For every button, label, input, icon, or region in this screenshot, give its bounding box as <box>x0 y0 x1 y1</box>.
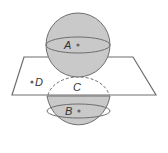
label-c: C <box>73 81 81 93</box>
label-a: A <box>63 39 71 51</box>
point-a-dot <box>76 43 79 46</box>
point-d-dot <box>30 80 33 83</box>
geometry-diagram: A B C D <box>0 0 168 153</box>
label-b: B <box>65 105 72 117</box>
diagram-canvas: A B C D <box>0 0 168 153</box>
label-d: D <box>35 76 43 88</box>
point-b-dot <box>77 109 80 112</box>
